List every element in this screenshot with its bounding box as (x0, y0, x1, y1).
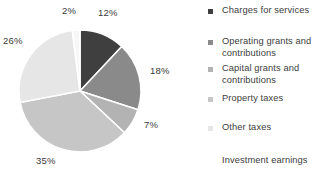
pie-slice-percent-label: 2% (62, 5, 76, 16)
legend-item-operating-grants-and-contributions[interactable]: Operating grants and contributions (208, 36, 323, 59)
legend-item-label: Property taxes (222, 93, 283, 105)
pie-slice[interactable] (19, 30, 80, 102)
legend-swatch-icon (208, 40, 213, 45)
legend-item-label: Other taxes (222, 122, 271, 134)
legend-swatch-icon (208, 9, 213, 14)
legend-item-charges-for-services[interactable]: Charges for services (208, 5, 323, 17)
pie-slice-percent-label: 35% (36, 155, 56, 166)
pie-slice-percent-label: 12% (98, 7, 118, 18)
pie-slice-percent-label: 7% (144, 119, 158, 130)
pie-slice-percent-label: 18% (150, 65, 170, 76)
pie-chart-plot-area: 12%18%7%35%26%2% (0, 0, 196, 174)
legend-swatch-icon (208, 159, 213, 164)
legend-item-label: Investment earnings (222, 155, 308, 167)
legend-swatch-icon (208, 126, 213, 131)
legend-item-property-taxes[interactable]: Property taxes (208, 93, 323, 105)
legend-item-label: Capital grants and contributions (222, 63, 299, 86)
legend-item-label: Charges for services (222, 5, 309, 17)
pie-slice-percent-label: 26% (3, 35, 23, 46)
chart-legend: Charges for servicesOperating grants and… (208, 0, 323, 174)
legend-swatch-icon (208, 97, 213, 102)
legend-item-label: Operating grants and contributions (222, 36, 311, 59)
legend-item-investment-earnings[interactable]: Investment earnings (208, 155, 323, 167)
pie-chart-figure: 12%18%7%35%26%2% Charges for servicesOpe… (0, 0, 323, 174)
legend-item-capital-grants-and-contributions[interactable]: Capital grants and contributions (208, 63, 323, 86)
pie-chart-svg (0, 0, 196, 174)
legend-swatch-icon (208, 67, 213, 72)
legend-item-other-taxes[interactable]: Other taxes (208, 122, 323, 134)
